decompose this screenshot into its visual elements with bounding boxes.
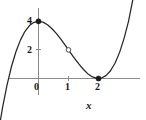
plot-area <box>0 0 146 120</box>
marker-inflection-point <box>66 48 71 53</box>
x-tick-label-2: 2 <box>95 82 100 92</box>
y-tick-label-2: 2 <box>27 45 32 55</box>
x-tick-label-0: 0 <box>34 82 39 92</box>
x-axis-title: x <box>86 100 92 111</box>
cubic-function-graph: 0 1 2 2 4 x <box>0 0 146 120</box>
x-tick-label-1: 1 <box>65 82 70 92</box>
y-tick-label-4: 4 <box>27 16 32 26</box>
function-curve <box>0 0 135 120</box>
marker-local-maximum <box>36 19 41 24</box>
